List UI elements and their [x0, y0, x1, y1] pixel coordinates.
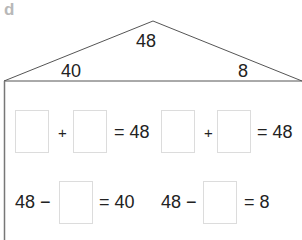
equation-result: = 48 [257, 123, 293, 141]
answer-box[interactable] [59, 181, 93, 224]
equation-start: 48 − [15, 193, 51, 211]
plus-operator: + [58, 125, 67, 140]
part-left-value: 40 [61, 62, 81, 80]
equation-result: = 40 [99, 193, 135, 211]
part-right-value: 8 [238, 62, 248, 80]
plus-operator: + [204, 125, 213, 140]
answer-box[interactable] [161, 110, 195, 153]
answer-box[interactable] [203, 181, 237, 224]
equation-result: = 48 [114, 123, 150, 141]
answer-box[interactable] [217, 110, 251, 153]
equation-result: = 8 [244, 193, 270, 211]
answer-box[interactable] [15, 110, 49, 153]
answer-box[interactable] [73, 110, 107, 153]
whole-value: 48 [136, 32, 156, 50]
equation-start: 48 − [161, 193, 197, 211]
